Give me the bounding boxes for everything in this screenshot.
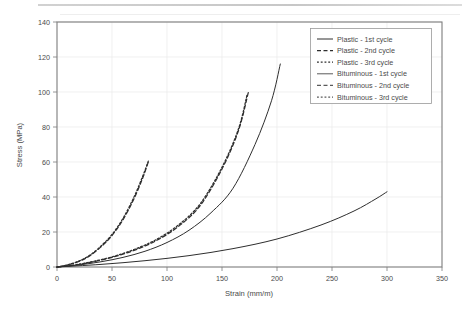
legend-label: Bituminous - 3rd cycle xyxy=(337,93,408,102)
y-axis-tick-labels: 020406080100120140 xyxy=(38,18,50,272)
x-tick-label: 150 xyxy=(216,274,228,283)
stress-strain-chart: 020406080100120140 050100150200250300350… xyxy=(0,0,467,311)
y-tick-label: 140 xyxy=(38,18,50,27)
y-tick-label: 20 xyxy=(42,228,50,237)
chart-canvas: 020406080100120140 050100150200250300350… xyxy=(0,0,467,311)
y-tick-label: 120 xyxy=(38,53,50,62)
x-tick-label: 300 xyxy=(381,274,393,283)
x-tick-label: 250 xyxy=(326,274,338,283)
y-tick-label: 0 xyxy=(46,263,50,272)
legend-label: Plastic - 1st cycle xyxy=(337,35,393,44)
curve-plastic-2nd-cycle xyxy=(57,92,248,267)
y-tick-label: 40 xyxy=(42,193,50,202)
x-tick-label: 200 xyxy=(271,274,283,283)
y-tick-label: 100 xyxy=(38,88,50,97)
x-tick-label: 350 xyxy=(436,274,448,283)
curve-plastic-3rd-cycle xyxy=(57,94,247,267)
y-tick-label: 60 xyxy=(42,158,50,167)
y-axis-title: Stress (MPa) xyxy=(15,122,24,167)
curve-bituminous-2nd-cycle xyxy=(57,162,148,267)
legend-label: Plastic - 3rd cycle xyxy=(337,58,393,67)
y-tick-label: 80 xyxy=(42,123,50,132)
scan-artifact-line-secondary xyxy=(60,14,460,15)
curve-bituminous-3rd-cycle xyxy=(57,161,148,267)
legend-label: Bituminous - 2nd cycle xyxy=(337,81,409,90)
scan-artifact-line xyxy=(38,4,462,6)
x-tick-label: 100 xyxy=(161,274,173,283)
chart-legend: Plastic - 1st cyclePlastic - 2nd cyclePl… xyxy=(311,29,432,104)
x-tick-label: 0 xyxy=(55,274,59,283)
x-tick-label: 50 xyxy=(108,274,116,283)
curve-plastic-1st-cycle xyxy=(57,64,280,267)
legend-label: Plastic - 2nd cycle xyxy=(337,46,395,55)
legend-label: Bituminous - 1st cycle xyxy=(337,69,407,78)
x-axis-title: Strain (mm/m) xyxy=(225,289,274,298)
x-axis-tick-labels: 050100150200250300350 xyxy=(55,274,448,283)
